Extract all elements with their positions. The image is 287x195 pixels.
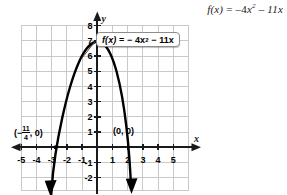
svg-text:3: 3 bbox=[140, 155, 145, 165]
root-label-numerator: 11 bbox=[22, 125, 29, 132]
x-axis-right-arrow bbox=[192, 143, 202, 151]
svg-text:4: 4 bbox=[156, 155, 161, 165]
coordinate-plane-graph: -5 -4 -3 -2 -1 1 2 3 4 5 8 7 6 5 4 3 2 1… bbox=[0, 0, 287, 195]
root-label-open: (− bbox=[14, 129, 22, 138]
root-point-marker bbox=[54, 145, 58, 149]
callout-term2: − 11x bbox=[151, 35, 174, 45]
svg-text:3: 3 bbox=[87, 97, 92, 107]
svg-text:8: 8 bbox=[87, 21, 92, 31]
equation-title-coef: –4 bbox=[236, 3, 247, 15]
root-label-close: , 0) bbox=[30, 129, 43, 138]
root-label-fraction: 11 4 bbox=[22, 125, 29, 141]
equation-title-equals: = bbox=[226, 3, 232, 15]
figure-container: -5 -4 -3 -2 -1 1 2 3 4 5 8 7 6 5 4 3 2 1… bbox=[0, 0, 287, 195]
svg-text:-2: -2 bbox=[84, 173, 92, 183]
svg-text:6: 6 bbox=[87, 51, 92, 61]
root-point-label: (− 11 4 , 0) bbox=[14, 125, 43, 141]
x-axis-left-arrow bbox=[11, 143, 21, 151]
curve-left-arrowhead bbox=[45, 180, 57, 195]
y-axis-top-arrow bbox=[93, 12, 101, 22]
callout-equals: = bbox=[119, 35, 124, 45]
svg-text:-5: -5 bbox=[17, 155, 25, 165]
grid-lines bbox=[21, 26, 188, 190]
equation-title-term2: 11x bbox=[267, 3, 283, 15]
equation-title: f(x) = –4x2 – 11x bbox=[207, 2, 283, 15]
function-callout-box[interactable]: f(x) = − 4x2 − 11x bbox=[96, 32, 180, 47]
equation-title-exponent: 2 bbox=[252, 2, 256, 10]
svg-text:-2: -2 bbox=[63, 155, 71, 165]
root-label-denominator: 4 bbox=[24, 134, 28, 141]
svg-text:5: 5 bbox=[171, 155, 176, 165]
x-axis bbox=[11, 143, 201, 151]
svg-text:-4: -4 bbox=[32, 155, 40, 165]
svg-text:2: 2 bbox=[87, 112, 92, 122]
y-axis-label: y bbox=[101, 13, 107, 24]
equation-title-minus: – bbox=[259, 3, 265, 15]
origin-point-label: (0, 0) bbox=[113, 126, 134, 136]
svg-text:-1: -1 bbox=[84, 158, 92, 168]
svg-text:1: 1 bbox=[87, 127, 92, 137]
equation-title-fx: f(x) bbox=[207, 3, 223, 15]
svg-text:5: 5 bbox=[87, 66, 92, 76]
svg-text:1: 1 bbox=[110, 155, 115, 165]
callout-fx: f(x) bbox=[102, 35, 116, 45]
callout-exponent: 2 bbox=[145, 37, 148, 43]
x-axis-label: x bbox=[193, 133, 199, 144]
svg-text:4: 4 bbox=[87, 82, 92, 92]
callout-term1: − 4x bbox=[127, 35, 145, 45]
